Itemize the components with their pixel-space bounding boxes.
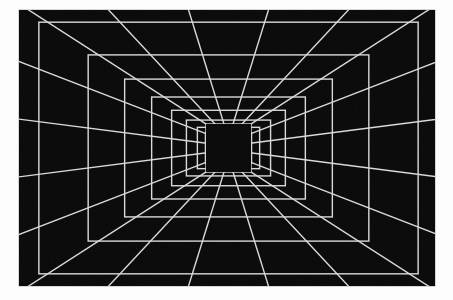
grid-svg <box>19 10 435 286</box>
perspective-grid-panel <box>19 10 435 286</box>
far-wall-square <box>206 124 251 172</box>
image-canvas <box>0 0 453 300</box>
